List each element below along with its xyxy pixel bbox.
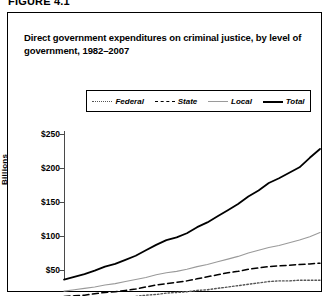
y-axis-title: Billions [0, 154, 9, 185]
y-axis-tick [59, 270, 65, 271]
series-lines [64, 131, 320, 296]
y-axis-tick-label: $150 [41, 197, 60, 207]
legend-label-total: Total [286, 97, 305, 106]
plot-area [64, 131, 320, 296]
legend-label-federal: Federal [115, 97, 143, 106]
legend-item-local: Local [208, 97, 252, 106]
y-axis-tick [59, 236, 65, 237]
legend-item-total: Total [263, 97, 305, 106]
y-axis-tick-label: $100 [41, 231, 60, 241]
series-line-local [64, 233, 320, 291]
series-line-federal [64, 280, 320, 296]
legend-item-federal: Federal [92, 97, 143, 106]
legend-label-state: State [178, 97, 198, 106]
series-line-total [64, 149, 320, 280]
y-axis-tick-label: $200 [41, 163, 60, 173]
y-axis-tick-label: $250 [41, 129, 60, 139]
y-axis-tick [59, 202, 65, 203]
chart-legend: Federal State Local Total [86, 90, 311, 112]
figure-frame: Direct government expenditures on crimin… [7, 12, 322, 292]
y-axis-tick [59, 168, 65, 169]
figure-number: FIGURE 4.1 [8, 0, 70, 7]
y-axis-tick [59, 134, 65, 135]
y-axis-labels: $50$100$150$200$250 [8, 125, 60, 295]
y-axis-tick-label: $50 [46, 265, 60, 275]
legend-label-local: Local [231, 97, 252, 106]
local-line-swatch-icon [208, 98, 228, 104]
page-title: Direct government expenditures on crimin… [24, 31, 322, 57]
state-line-swatch-icon [155, 98, 175, 104]
total-line-swatch-icon [263, 98, 283, 104]
federal-line-swatch-icon [92, 98, 112, 104]
legend-item-state: State [155, 97, 198, 106]
